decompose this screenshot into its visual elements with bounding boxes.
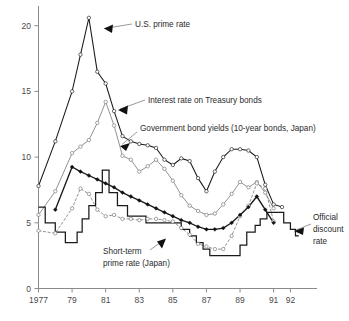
data-point: [70, 90, 73, 93]
data-point: [154, 217, 157, 220]
data-point: [196, 209, 199, 212]
data-point: [112, 124, 115, 127]
data-point: [54, 140, 57, 143]
data-point: [171, 163, 174, 166]
arrowhead-us-prime-rate: [104, 25, 113, 34]
data-point: [255, 155, 258, 158]
data-point: [79, 53, 82, 56]
data-point: [272, 203, 275, 206]
chart-canvas: 05101520 19777981838587899192 U.S. prime…: [0, 0, 349, 321]
data-point: [205, 245, 208, 248]
data-point: [146, 165, 149, 168]
data-point: [272, 207, 275, 210]
data-point: [96, 208, 99, 211]
data-point: [205, 190, 208, 193]
data-point: [104, 82, 107, 85]
x-axis-tick-labels: 19777981838587899192: [29, 295, 295, 305]
x-tick-label: 91: [269, 295, 279, 305]
y-tick-label: 5: [26, 218, 31, 228]
data-point: [222, 203, 225, 206]
data-point: [154, 146, 157, 149]
series-line-4: [39, 170, 299, 255]
data-point: [121, 154, 124, 157]
data-point: [280, 205, 283, 208]
data-point: [205, 213, 208, 216]
data-point: [129, 140, 132, 143]
data-point: [129, 158, 132, 161]
x-tick-label: 87: [202, 295, 212, 305]
annotation-label-treasury-bonds: Interest rate on Treasury bonds: [148, 96, 262, 105]
data-point: [70, 207, 73, 210]
data-point: [154, 158, 157, 161]
data-point: [188, 204, 191, 207]
data-point: [222, 247, 225, 250]
data-point: [163, 158, 166, 161]
data-point: [255, 182, 258, 185]
data-point: [112, 109, 115, 112]
data-point: [213, 170, 216, 173]
data-point: [264, 187, 267, 190]
data-point: [121, 217, 124, 220]
data-point: [188, 159, 191, 162]
data-point: [87, 138, 90, 141]
data-point: [112, 213, 115, 216]
data-point: [37, 213, 40, 216]
data-point: [180, 194, 183, 197]
data-point: [238, 180, 241, 183]
data-point: [222, 155, 225, 158]
x-tick-label: 79: [67, 295, 77, 305]
data-point: [196, 176, 199, 179]
data-point: [37, 229, 40, 232]
arrowhead-treasury-bonds: [118, 106, 128, 115]
data-point: [37, 184, 40, 187]
data-point: [79, 187, 82, 190]
data-point: [96, 70, 99, 73]
annotation-official-discount-rate: Official discount rate: [294, 213, 344, 246]
data-point: [121, 134, 124, 137]
data-point: [163, 167, 166, 170]
y-tick-label: 10: [22, 152, 32, 162]
data-point: [96, 121, 99, 124]
data-point: [104, 215, 107, 218]
annotation-us-prime-rate: U.S. prime rate: [104, 20, 191, 33]
data-point: [264, 191, 267, 194]
data-point: [188, 233, 191, 236]
data-point: [138, 170, 141, 173]
y-tick-label: 0: [26, 284, 31, 294]
x-tick-label: 83: [135, 295, 145, 305]
annotation-label-official-discount-rate-line3: rate: [313, 237, 328, 246]
annotation-label-official-discount-rate-line1: Official: [313, 213, 338, 222]
y-axis-tick-labels: 05101520: [22, 21, 32, 294]
data-point: [54, 190, 57, 193]
data-point: [54, 232, 57, 235]
annotation-label-us-prime-rate: U.S. prime rate: [135, 20, 191, 29]
x-tick-label: 1977: [29, 295, 48, 305]
y-axis-ticks: [35, 26, 39, 289]
data-point: [171, 179, 174, 182]
data-point: [213, 212, 216, 215]
y-axis: 05101520: [22, 6, 39, 294]
data-point: [180, 157, 183, 160]
data-point: [230, 148, 233, 151]
x-tick-label: 81: [101, 295, 111, 305]
data-point: [87, 192, 90, 195]
data-point: [163, 218, 166, 221]
data-point: [70, 151, 73, 154]
data-point: [104, 100, 107, 103]
data-point: [196, 242, 199, 245]
data-point: [247, 186, 250, 189]
data-point: [171, 220, 174, 223]
data-point: [138, 142, 141, 145]
annotation-label-official-discount-rate-line2: discount: [313, 225, 344, 234]
x-tick-label: 92: [286, 295, 296, 305]
data-point: [213, 227, 217, 231]
data-point: [87, 16, 90, 19]
data-point: [230, 192, 233, 195]
y-tick-label: 20: [22, 21, 32, 31]
data-point: [180, 226, 183, 229]
data-point: [129, 217, 132, 220]
x-axis-ticks: [39, 289, 291, 293]
annotation-short-term-prime-rate: Short-term prime rate (Japan): [103, 239, 170, 269]
series-layer: [39, 18, 299, 256]
data-point: [238, 148, 241, 151]
